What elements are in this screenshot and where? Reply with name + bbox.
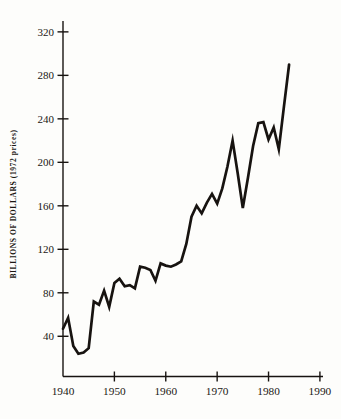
y-tick-label: 120 <box>38 243 55 255</box>
data-line <box>63 65 289 354</box>
y-tick-label: 80 <box>43 287 55 299</box>
y-tick-label: 200 <box>38 156 55 168</box>
y-tick-label: 40 <box>43 330 55 342</box>
chart-svg: 4080120160200240280320194019501960197019… <box>0 0 341 419</box>
y-tick-label: 240 <box>38 113 55 125</box>
y-tick-label: 160 <box>38 200 55 212</box>
x-tick-label: 1980 <box>257 385 280 397</box>
x-tick-label: 1960 <box>154 385 177 397</box>
x-tick-label: 1990 <box>309 385 332 397</box>
x-tick-label: 1940 <box>52 385 75 397</box>
x-tick-label: 1970 <box>206 385 229 397</box>
x-tick-label: 1950 <box>103 385 126 397</box>
y-tick-label: 320 <box>38 26 55 38</box>
scanned-line-chart-figure: BILLIONS OF DOLLARS (1972 prices) 408012… <box>0 0 341 419</box>
y-tick-label: 280 <box>38 69 55 81</box>
